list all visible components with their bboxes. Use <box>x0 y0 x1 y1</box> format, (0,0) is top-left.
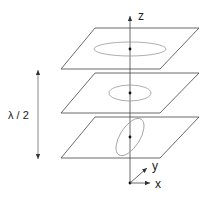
z-axis-label: z <box>138 9 144 23</box>
y-axis-label: y <box>152 159 158 173</box>
bottom-center-dot <box>129 136 132 139</box>
x-axis-label: x <box>155 177 161 191</box>
half-wavelength-label: λ / 2 <box>8 109 29 121</box>
top-center-dot <box>129 48 132 51</box>
coordinate-axes <box>129 168 150 184</box>
y-axis-arrow <box>130 168 147 183</box>
polarization-diagram: z λ / 2 x y <box>0 0 219 202</box>
middle-center-dot <box>129 92 132 95</box>
